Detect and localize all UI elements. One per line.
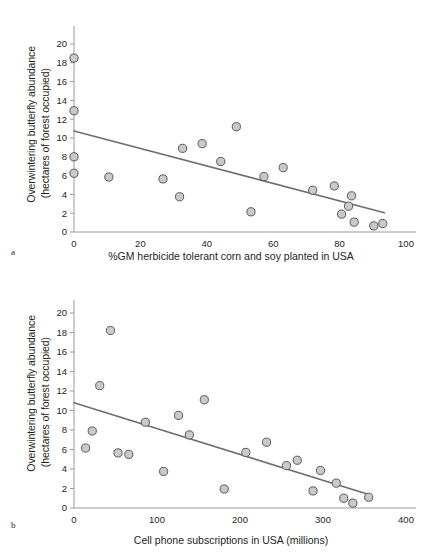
x-tick-label: 100 (149, 514, 165, 525)
data-point (96, 382, 104, 390)
y-tick-label: 8 (62, 424, 67, 435)
data-point (293, 456, 301, 464)
y-tick-label: 16 (56, 76, 67, 87)
y-tick-label: 20 (56, 38, 67, 49)
data-point (178, 144, 186, 152)
y-tick-label: 14 (56, 366, 67, 377)
y-tick-label: 4 (62, 463, 67, 474)
data-point (198, 140, 206, 148)
data-point (365, 493, 373, 501)
panel-a: a Overwintering butterfly abundance (hec… (0, 0, 432, 280)
data-point (217, 157, 225, 165)
data-point (247, 208, 255, 216)
data-point (175, 193, 183, 201)
y-tick-label: 14 (56, 95, 67, 106)
data-point (220, 485, 228, 493)
y-tick-label: 10 (56, 132, 67, 143)
x-tick-label: 40 (202, 238, 213, 249)
data-point (70, 169, 78, 177)
data-point (242, 448, 250, 456)
data-point (349, 499, 357, 507)
data-point (141, 418, 149, 426)
x-tick-label: 20 (135, 238, 146, 249)
data-point (330, 182, 338, 190)
data-point (316, 466, 324, 474)
y-tick-label: 18 (56, 327, 67, 338)
y-tick-label: 12 (56, 114, 67, 125)
y-tick-label: 10 (56, 405, 67, 416)
x-tick-label: 400 (398, 514, 414, 525)
data-point (309, 186, 317, 194)
data-point (347, 192, 355, 200)
x-tick-label: 80 (334, 238, 345, 249)
y-tick-label: 6 (62, 170, 67, 181)
panel-b-plot: 024681012141618200100200300400 (0, 280, 432, 558)
data-point (262, 438, 270, 446)
y-tick-label: 2 (62, 483, 67, 494)
data-point (174, 411, 182, 419)
data-point (185, 431, 193, 439)
x-tick-label: 0 (71, 514, 76, 525)
y-tick-label: 0 (62, 502, 67, 513)
data-point (309, 487, 317, 495)
data-point (82, 444, 90, 452)
data-point (337, 210, 345, 218)
data-point (260, 172, 268, 180)
data-point (70, 107, 78, 115)
data-point (379, 219, 387, 227)
data-point (160, 467, 168, 475)
data-point (350, 218, 358, 226)
data-point (279, 164, 287, 172)
y-tick-label: 6 (62, 444, 67, 455)
data-point (200, 396, 208, 404)
panel-b: b Overwintering butterfly abundance (hec… (0, 280, 432, 558)
data-point (114, 449, 122, 457)
x-tick-label: 100 (398, 238, 414, 249)
y-tick-label: 2 (62, 208, 67, 219)
data-point (70, 153, 78, 161)
data-point (370, 222, 378, 230)
x-tick-label: 60 (268, 238, 279, 249)
data-point (106, 326, 114, 334)
y-tick-label: 0 (62, 226, 67, 237)
regression-line (74, 131, 384, 213)
x-tick-label: 300 (315, 514, 331, 525)
y-tick-label: 20 (56, 307, 67, 318)
data-point (159, 175, 167, 183)
y-tick-label: 18 (56, 57, 67, 68)
x-tick-label: 200 (232, 514, 248, 525)
y-tick-label: 4 (62, 189, 67, 200)
y-tick-label: 16 (56, 346, 67, 357)
data-point (125, 450, 133, 458)
data-point (70, 54, 78, 62)
data-point (344, 202, 352, 210)
y-tick-label: 12 (56, 385, 67, 396)
data-point (282, 461, 290, 469)
y-tick-label: 8 (62, 151, 67, 162)
panel-a-plot: 02468101214161820020406080100 (0, 0, 432, 280)
data-point (88, 427, 96, 435)
data-point (232, 123, 240, 131)
x-tick-label: 0 (71, 238, 76, 249)
data-point (340, 494, 348, 502)
data-point (332, 479, 340, 487)
data-point (105, 173, 113, 181)
